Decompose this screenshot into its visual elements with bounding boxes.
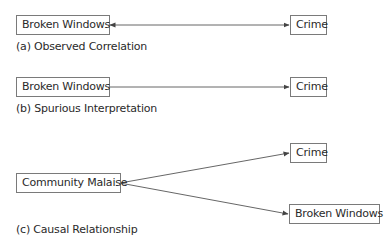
edge-c-malaise-to-broken-windows (120, 183, 288, 214)
node-crime-a: Crime (290, 15, 327, 35)
node-crime-b: Crime (290, 77, 327, 97)
node-broken-windows-a: Broken Windows (16, 15, 110, 35)
caption-causal-relationship: (c) Causal Relationship (16, 223, 137, 237)
node-broken-windows-c: Broken Windows (289, 204, 380, 224)
node-crime-c: Crime (290, 143, 327, 163)
caption-observed-correlation: (a) Observed Correlation (16, 40, 147, 54)
caption-spurious-interpretation: (b) Spurious Interpretation (16, 102, 157, 116)
node-broken-windows-b: Broken Windows (16, 77, 110, 97)
edge-c-malaise-to-crime (120, 153, 289, 183)
node-community-malaise-c: Community Malaise (16, 173, 121, 193)
